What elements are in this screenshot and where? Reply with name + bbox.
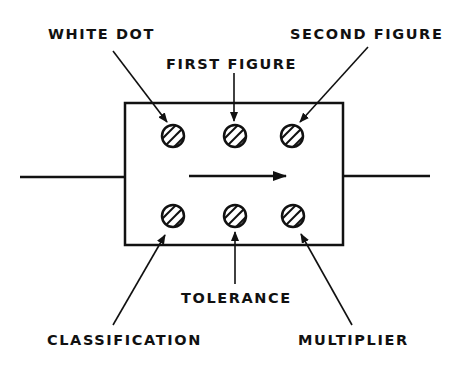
classification-label: CLASSIFICATION <box>47 332 202 348</box>
first-figure-label: FIRST FIGURE <box>166 56 297 72</box>
second-figure-label: SECOND FIGURE <box>290 26 443 42</box>
second-figure-dot <box>278 122 308 152</box>
white-dot-circle <box>159 122 189 152</box>
white-dot-label: WHITE DOT <box>48 26 155 42</box>
multiplier-label: MULTIPLIER <box>298 332 409 348</box>
color-code-diagram: WHITE DOT FIRST FIGURE SECOND FIGURE TOL… <box>0 0 464 367</box>
white-dot-leader-arrow <box>113 51 167 122</box>
first-figure-dot <box>221 122 251 152</box>
multiplier-dot <box>279 202 309 232</box>
tolerance-dot <box>221 202 251 232</box>
multiplier-leader-arrow <box>301 234 352 325</box>
classification-dot <box>159 202 189 232</box>
classification-leader-arrow <box>113 235 165 325</box>
second-figure-leader-arrow <box>300 47 368 122</box>
tolerance-label: TOLERANCE <box>181 290 292 306</box>
